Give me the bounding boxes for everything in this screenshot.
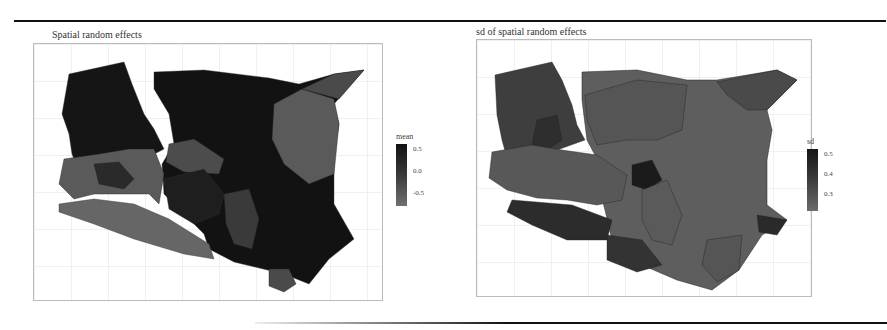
- panel-title-mean: Spatial random effects: [52, 29, 142, 40]
- legend-tick: -0.5: [413, 189, 424, 197]
- panel-title-sd: sd of spatial random effects: [476, 26, 586, 37]
- kenya-map-sd: [477, 40, 813, 298]
- top-rule: [14, 20, 886, 22]
- kenya-map-mean: [34, 44, 384, 302]
- legend-title: mean: [396, 132, 413, 141]
- bottom-rule: [255, 322, 887, 324]
- legend-title: sd: [807, 137, 814, 146]
- legend-colorbar: [807, 149, 818, 211]
- legend-tick: 0.0: [413, 167, 422, 175]
- legend-tick: 0.3: [824, 190, 833, 198]
- map-frame-sd: sd 0.5 0.4 0.3: [476, 39, 812, 297]
- legend-tick: 0.5: [413, 145, 422, 153]
- legend-tick: 0.4: [824, 170, 833, 178]
- legend-colorbar: [396, 144, 407, 206]
- map-frame-mean: mean 0.5 0.0 -0.5: [33, 43, 383, 301]
- legend-tick: 0.5: [824, 150, 833, 158]
